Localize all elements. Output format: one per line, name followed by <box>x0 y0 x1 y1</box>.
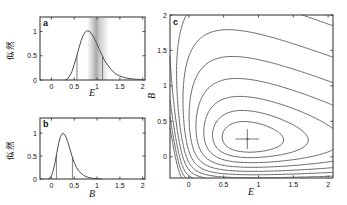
plots-canvas: 00.511.5200.5100.511.5200.5100.511.5200.… <box>0 0 347 205</box>
axes-frame-b <box>40 118 145 179</box>
y-tick-label: 0.5 <box>157 118 167 125</box>
figure-likelihood-panels: 00.511.5200.5100.511.5200.5100.511.5200.… <box>0 0 347 205</box>
x-tick-label: 0 <box>49 182 53 189</box>
likelihood-curve-b <box>48 133 102 179</box>
y-tick-label: 0.5 <box>27 153 37 160</box>
contour-lines <box>170 15 333 178</box>
y-tick-label: 0 <box>163 153 167 160</box>
x-tick-label: 2 <box>326 181 330 188</box>
y-tick-label: 1 <box>33 28 37 35</box>
panel-b-ylabel: 似然 <box>3 132 14 168</box>
x-tick-label: 0 <box>187 181 191 188</box>
y-tick-label: 0 <box>33 77 37 84</box>
y-tick-label: 0 <box>33 176 37 183</box>
panel-b-letter: b <box>43 119 49 129</box>
x-tick-label: 0 <box>49 83 53 90</box>
y-tick-label: 1 <box>33 130 37 137</box>
axes-frame-a <box>40 17 145 80</box>
y-tick-label: 1.5 <box>157 47 167 54</box>
x-tick-label: 2 <box>141 83 145 90</box>
axes-frame-c <box>170 15 333 178</box>
x-tick-label: 2 <box>141 182 145 189</box>
y-tick-label: 1 <box>163 82 167 89</box>
panel-c-ylabel: B <box>146 86 158 106</box>
panel-c-letter: c <box>173 17 178 27</box>
panel-a-xlabel: E <box>62 87 122 98</box>
y-tick-label: 0.5 <box>27 52 37 59</box>
panel-a-letter: a <box>43 18 48 28</box>
x-tick-label: 1.5 <box>288 181 298 188</box>
panel-a-ylabel: 似然 <box>3 32 14 68</box>
y-tick-label: 2 <box>163 12 167 19</box>
panel-c-xlabel: E <box>221 186 281 197</box>
panel-b-xlabel: B <box>62 188 122 199</box>
minimum-marker-dot <box>246 138 249 141</box>
